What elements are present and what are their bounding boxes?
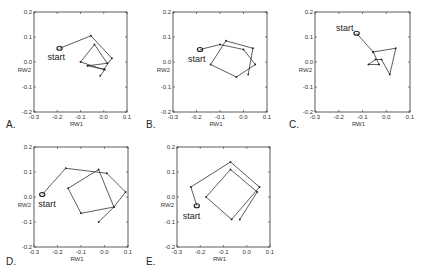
x-tick-label: -0.1 [76,249,87,255]
x-axis-label: RW1 [70,256,84,262]
x-tick-label: -0.1 [218,249,229,255]
start-label: start [183,211,201,221]
trajectory-point [80,61,82,63]
panel-label: E. [146,256,155,267]
panel-label: C. [289,119,299,130]
y-tick-label: -0.1 [165,219,176,225]
plot-frame [177,147,270,247]
trajectory-point [205,196,207,198]
x-tick-label: 0.0 [100,114,109,120]
trajectory-point [104,69,106,71]
x-tick-label: -0.1 [357,114,368,120]
y-tick-label: -0.1 [303,84,314,90]
trajectory-point [381,59,383,61]
trajectory-line [200,41,255,77]
y-tick-label: -0.1 [22,219,33,225]
trajectory-point [231,219,233,221]
y-tick-label: 0.2 [163,9,172,15]
x-tick-label: 0.0 [239,114,248,120]
trajectory-point [67,187,69,189]
x-tick-label: 0.1 [406,114,415,120]
trajectory-point [378,64,380,66]
trajectory-point [190,186,192,188]
trajectory-point [113,206,115,208]
trajectory-point [243,49,245,51]
trajectory-point [368,64,370,66]
y-axis-label: RW2 [161,202,175,208]
trajectory-point [254,64,256,66]
trajectory-point [230,161,232,163]
y-tick-label: -0.1 [22,84,33,90]
y-axis-label: RW2 [299,67,313,73]
x-axis-label: RW1 [70,121,84,127]
trajectory-point [94,44,96,46]
x-axis-label: RW1 [213,256,227,262]
y-tick-label: 0.2 [24,9,33,15]
y-tick-label: -0.2 [303,109,314,115]
panel-a: -0.3-0.2-0.10.00.1-0.2-0.10.00.10.2RW1RW… [6,9,132,130]
trajectory-point [252,47,254,49]
y-tick-label: 0.2 [305,9,314,15]
start-marker [57,46,62,50]
trajectory-point [230,169,232,171]
y-tick-label: 0.1 [24,34,33,40]
trajectory-point [65,167,67,169]
x-tick-label: -0.2 [334,114,345,120]
x-tick-label: 0.0 [100,249,109,255]
trajectory-point [106,62,108,64]
y-tick-label: -0.2 [165,244,176,250]
x-tick-label: -0.2 [191,114,202,120]
trajectory-point [125,191,127,193]
x-tick-label: 0.1 [124,249,133,255]
trajectory-point [210,64,212,66]
trajectory-line [357,33,396,74]
trajectory-point [247,74,249,76]
trajectory-point [256,191,258,193]
start-label: start [188,54,206,64]
y-tick-label: 0.1 [163,34,172,40]
trajectory-point [372,51,374,53]
plot-frame [315,12,410,112]
x-tick-label: 0.0 [243,249,252,255]
trajectory-line [42,168,125,222]
x-tick-label: 0.1 [263,114,272,120]
y-tick-label: 0.0 [163,59,172,65]
start-marker [354,31,359,35]
x-axis-label: RW1 [209,121,223,127]
panel-d: -0.3-0.2-0.10.00.1-0.2-0.10.00.10.2RW1RW… [6,144,133,267]
panel-label: A. [6,119,15,130]
y-tick-label: 0.0 [305,59,314,65]
y-tick-label: 0.1 [24,169,33,175]
trajectory-point [239,219,241,221]
y-tick-label: 0.2 [167,144,176,150]
y-tick-label: 0.2 [24,144,33,150]
start-label: start [336,23,354,33]
x-tick-label: -0.2 [52,114,63,120]
y-tick-label: 0.0 [167,194,176,200]
trajectory-point [106,172,108,174]
trajectory-point [99,75,101,77]
start-label: start [38,199,56,209]
trajectory-point [90,35,92,37]
trajectory-point [236,76,238,78]
y-tick-label: -0.2 [22,109,33,115]
trajectory-point [259,186,261,188]
x-tick-label: -0.2 [52,249,63,255]
panel-c: -0.3-0.2-0.10.00.1-0.2-0.10.00.10.2RW1RW… [289,9,415,130]
y-axis-label: RW2 [18,202,32,208]
panel-b: -0.3-0.2-0.10.00.1-0.2-0.10.00.10.2RW1RW… [146,9,272,130]
trajectory-point [219,44,221,46]
trajectory-point [80,212,82,214]
x-tick-label: 0.1 [266,249,275,255]
trajectory-point [98,221,100,223]
x-tick-label: -0.1 [215,114,226,120]
figure-canvas: -0.3-0.2-0.10.00.1-0.2-0.10.00.10.2RW1RW… [0,0,423,275]
trajectory-point [395,47,397,49]
x-axis-label: RW1 [352,121,366,127]
y-tick-label: 0.0 [24,194,33,200]
start-label: start [48,52,66,62]
y-tick-label: 0.0 [24,59,33,65]
y-tick-label: -0.2 [161,109,172,115]
x-tick-label: -0.2 [195,249,206,255]
trajectory-point [375,59,377,61]
